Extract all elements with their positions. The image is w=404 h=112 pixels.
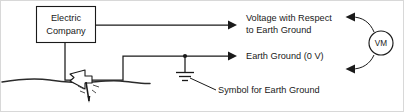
voltmeter-lower-arrow-curve: [352, 55, 374, 69]
ground-rod-clamp-body: [70, 70, 92, 89]
earth-ground-conductor-arrowhead: [228, 52, 237, 61]
ground-rod-clamp: [70, 70, 99, 103]
voltmeter-upper-arrow-curve: [352, 17, 374, 32]
earth-ground-conductor: [88, 52, 237, 81]
earth-ground-symbol: [176, 54, 194, 81]
electric-company-label-line2: Company: [46, 26, 86, 36]
symbol-caption-leader-line: [190, 78, 216, 90]
electric-company-box-outline: [37, 7, 96, 43]
voltmeter-lower-arrowhead: [346, 65, 356, 74]
electric-company-box: Electric Company: [37, 7, 96, 43]
earth-ground-conductor-line: [88, 56, 228, 80]
voltage-conductor-arrowhead: [228, 21, 237, 30]
voltmeter-label: VM: [375, 39, 387, 48]
voltmeter-upper-arrowhead: [346, 13, 356, 22]
voltage-label-line1: Voltage with Respect: [246, 13, 332, 23]
voltage-label-line2: to Earth Ground: [246, 25, 311, 35]
voltmeter: VM: [346, 13, 394, 74]
symbol-caption-label: Symbol for Earth Ground: [218, 85, 320, 95]
earth-ground-label: Earth Ground (0 V): [246, 51, 324, 61]
voltage-conductor: [95, 21, 237, 30]
earth-ground-diagram: Electric Company: [0, 0, 404, 112]
electric-company-label-line1: Electric: [51, 13, 82, 23]
